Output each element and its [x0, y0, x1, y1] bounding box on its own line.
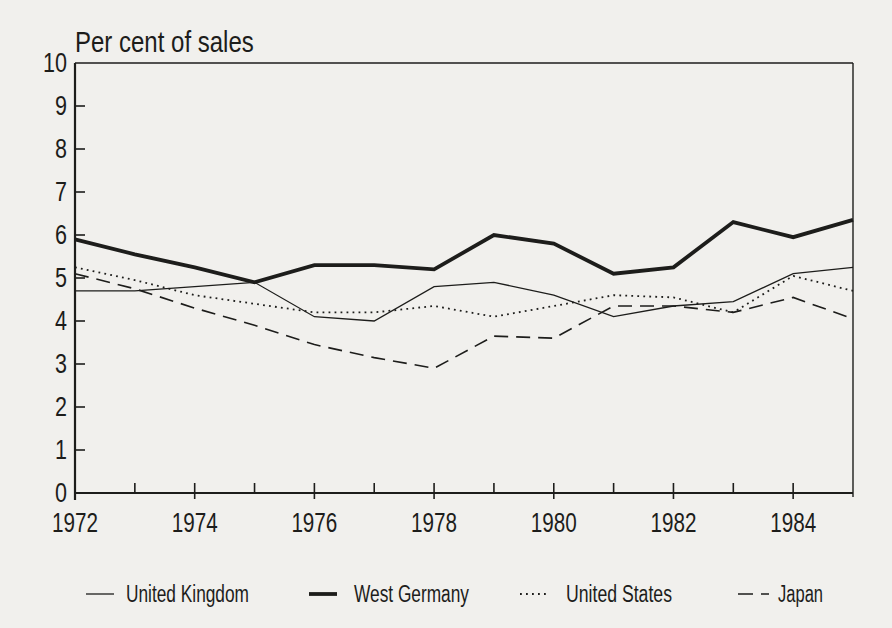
- percent-of-sales-line-chart: 0123456789101972197419761978198019821984…: [0, 0, 892, 628]
- series-line-united-states: [75, 267, 853, 316]
- y-axis-tick-label: 1: [55, 435, 67, 465]
- y-axis-tick-label: 8: [55, 134, 67, 164]
- y-axis-tick-label: 3: [55, 349, 67, 379]
- x-axis-tick-label: 1980: [531, 508, 577, 538]
- legend-label-japan: Japan: [778, 581, 823, 607]
- y-axis-tick-label: 4: [55, 306, 67, 336]
- x-axis-tick-label: 1978: [411, 508, 457, 538]
- series-line-united-kingdom: [75, 267, 853, 321]
- chart-title: Per cent of sales: [75, 27, 254, 57]
- x-axis-tick-label: 1974: [172, 508, 218, 538]
- series-line-japan: [75, 274, 853, 369]
- y-axis-tick-label: 6: [55, 220, 67, 250]
- x-axis-tick-label: 1976: [291, 508, 337, 538]
- legend-label-west-germany: West Germany: [354, 581, 469, 607]
- y-axis-tick-label: 7: [55, 177, 67, 207]
- x-axis-tick-label: 1972: [52, 508, 98, 538]
- series-line-west-germany: [75, 220, 853, 282]
- x-axis-tick-label: 1984: [770, 508, 816, 538]
- legend-label-united-kingdom: United Kingdom: [126, 581, 249, 607]
- legend-label-united-states: United States: [566, 581, 672, 607]
- y-axis-tick-label: 5: [55, 263, 67, 293]
- y-axis-tick-label: 2: [55, 392, 67, 422]
- y-axis-tick-label: 0: [55, 478, 67, 508]
- y-axis-tick-label: 10: [43, 48, 67, 78]
- x-axis-tick-label: 1982: [650, 508, 696, 538]
- y-axis-tick-label: 9: [55, 91, 67, 121]
